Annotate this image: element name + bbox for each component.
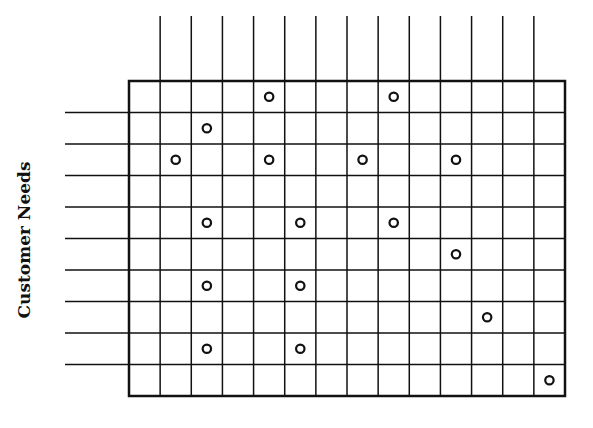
relationship-circle-icon [483, 313, 491, 321]
relationship-circle-icon [203, 124, 211, 132]
relationship-circle-icon [265, 156, 273, 164]
relationship-circle-icon [296, 345, 304, 353]
relationship-circle-icon [296, 282, 304, 290]
relationship-circle-icon [390, 219, 398, 227]
relationship-circle-icon [545, 376, 553, 384]
column-lines [160, 16, 534, 396]
relationship-circle-icon [172, 156, 180, 164]
row-lines [65, 113, 565, 365]
relationship-circle-icon [203, 345, 211, 353]
relationship-circle-icon [358, 156, 366, 164]
relationship-circle-icon [203, 219, 211, 227]
relationship-circle-icon [265, 93, 273, 101]
relationship-circle-icon [390, 93, 398, 101]
relationship-circle-icon [452, 250, 460, 258]
relationship-matrix [0, 0, 593, 428]
relationship-circle-icon [452, 156, 460, 164]
relationship-circle-icon [203, 282, 211, 290]
relationship-circle-icon [296, 219, 304, 227]
